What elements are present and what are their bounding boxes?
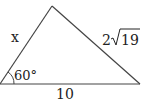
label-right-radicand: 19: [121, 32, 139, 48]
label-right-coef: 2: [102, 32, 111, 48]
label-angle: 60°: [14, 68, 37, 83]
label-base: 10: [56, 86, 74, 101]
label-right-side: 2 19: [102, 29, 140, 48]
triangle-diagram: x 60° 10 2 19: [0, 0, 145, 101]
label-left-side: x: [11, 29, 19, 45]
